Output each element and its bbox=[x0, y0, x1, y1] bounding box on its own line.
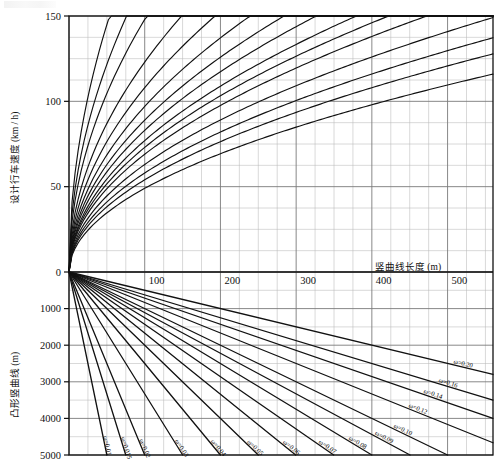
x-tick-label: 300 bbox=[300, 275, 316, 286]
vertical-curve-nomograph: 0501001501000200030004000500010020030040… bbox=[0, 0, 502, 461]
upper-y-axis-title: 设计行车速度 (km / h) bbox=[9, 112, 21, 205]
chart-svg: 0501001501000200030004000500010020030040… bbox=[0, 0, 502, 461]
x-tick-label: 500 bbox=[452, 275, 468, 286]
x-axis-title: 竖曲线长度 (m) bbox=[375, 261, 441, 273]
scan-artifact bbox=[4, 1, 56, 8]
upper-y-tick-label: 150 bbox=[45, 11, 61, 22]
x-tick-label: 100 bbox=[149, 275, 165, 286]
x-tick-label: 200 bbox=[224, 275, 240, 286]
lower-y-tick-label: 5000 bbox=[40, 450, 61, 461]
upper-y-tick-label: 100 bbox=[45, 96, 61, 107]
lower-y-tick-label: 2000 bbox=[40, 340, 61, 351]
lower-y-tick-label: 1000 bbox=[40, 303, 61, 314]
lower-y-tick-label: 3000 bbox=[40, 376, 61, 387]
upper-y-tick-label: 0 bbox=[56, 267, 61, 278]
lower-y-axis-title: 凸形竖曲线 (m) bbox=[9, 352, 21, 418]
x-tick-label: 400 bbox=[376, 275, 392, 286]
upper-y-tick-label: 50 bbox=[51, 181, 62, 192]
lower-y-tick-label: 4000 bbox=[40, 413, 61, 424]
